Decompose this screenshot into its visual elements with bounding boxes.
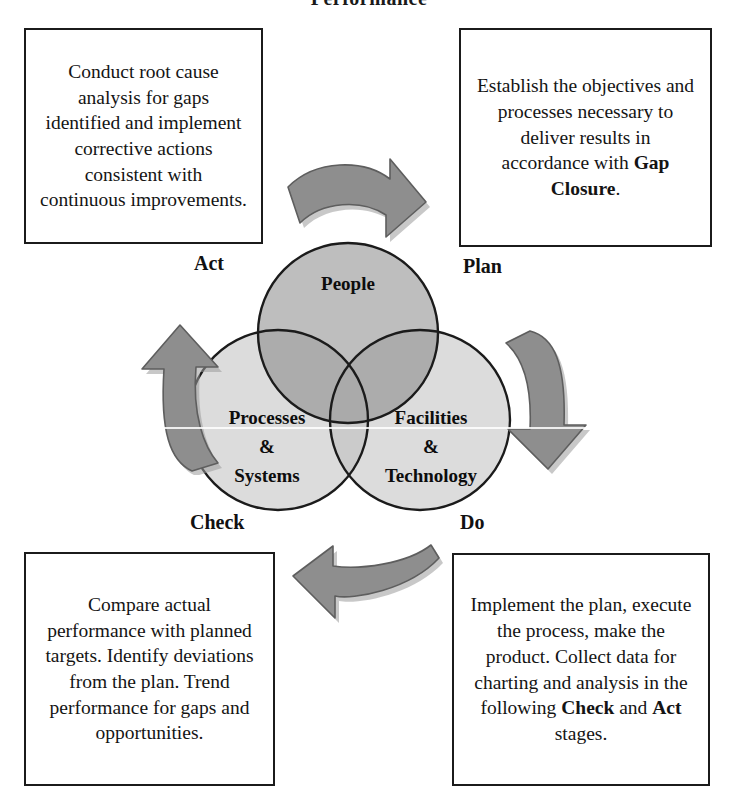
do-description-box: Implement the plan, execute the process,… [452, 553, 710, 786]
check-description-text: Compare actual performance with planned … [40, 592, 259, 746]
plan-description-text: Establish the objectives and processes n… [475, 73, 696, 202]
venn-label-facilities-line1: Facilities [395, 407, 468, 428]
page-title: Performance [0, 0, 738, 10]
do-text-segment-3: stages. [555, 723, 608, 744]
venn-label-processes-line1: Processes [229, 407, 306, 428]
do-description-text: Implement the plan, execute the process,… [468, 592, 694, 746]
arrow-act-to-plan [283, 152, 433, 267]
arrow-do-to-check [288, 540, 443, 635]
check-description-box: Compare actual performance with planned … [24, 552, 275, 786]
diagram-canvas: Performance Conduct root cause analysis … [0, 0, 738, 803]
venn-label-facilities-line2: & [423, 436, 439, 457]
act-description-text: Conduct root cause analysis for gaps ide… [40, 59, 247, 213]
plan-description-box: Establish the objectives and processes n… [459, 28, 712, 247]
do-bold-term-act: Act [652, 697, 681, 718]
do-text-segment-2: and [614, 697, 652, 718]
arrow-check-to-act [120, 320, 240, 475]
arrow-plan-to-do [496, 325, 616, 475]
venn-label-processes-line3: Systems [234, 465, 299, 486]
venn-label-processes-line2: & [259, 436, 275, 457]
venn-label-facilities-line3: Technology [385, 465, 478, 486]
act-description-box: Conduct root cause analysis for gaps ide… [24, 28, 263, 244]
do-bold-term-check: Check [561, 697, 614, 718]
plan-text-segment-2: . [615, 178, 620, 199]
venn-label-people: People [321, 273, 375, 294]
arrow-body [142, 325, 218, 471]
